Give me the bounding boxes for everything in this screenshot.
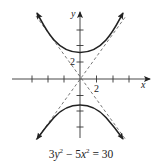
- hyperbola-graph: y x 2 2: [0, 0, 162, 166]
- lower-branch-right: [80, 105, 123, 139]
- x-axis: [12, 76, 150, 83]
- y-axis: [77, 12, 84, 138]
- y-axis-label: y: [70, 8, 76, 19]
- x-axis-label: x: [140, 79, 146, 90]
- upper-branch-right: [80, 13, 123, 53]
- y-tick-label-2: 2: [70, 56, 75, 67]
- equation-caption: 3y2 − 5x2 = 30: [0, 147, 162, 160]
- lower-branch-left: [37, 105, 80, 139]
- x-tick-label-2: 2: [94, 83, 99, 94]
